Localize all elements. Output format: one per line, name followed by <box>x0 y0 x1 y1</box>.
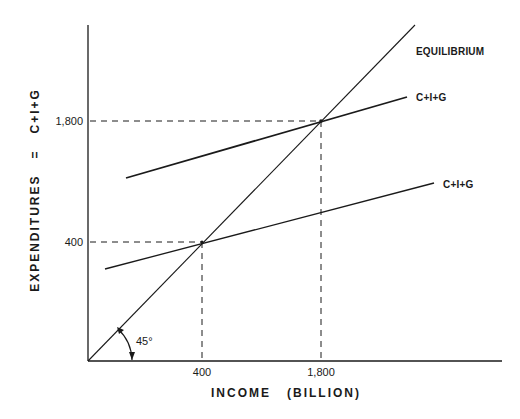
angle-label: 45° <box>136 335 153 347</box>
x-tick-1800: 1,800 <box>307 366 335 378</box>
cig-lower-label: C+I+G <box>443 179 473 190</box>
income-expenditure-chart: 45° EQUILIBRIUM C+I+G C+I+G 1,800 400 40… <box>0 0 520 419</box>
equilibrium-label: EQUILIBRIUM <box>416 46 484 57</box>
equilibrium-point-400 <box>200 240 203 243</box>
y-tick-1800: 1,800 <box>55 115 83 127</box>
angle-arrow-bottom-icon <box>129 352 135 360</box>
angle-arc <box>118 329 132 360</box>
equilibrium-point-1800 <box>319 119 323 123</box>
y-axis-title: EXPENDITURES = C+I+G <box>28 88 42 292</box>
cig-lower-line <box>105 183 434 269</box>
cig-upper-label: C+I+G <box>416 92 446 103</box>
x-tick-400: 400 <box>193 366 211 378</box>
equilibrium-line <box>88 25 415 361</box>
x-axis-title: INCOME (BILLION) <box>211 386 361 400</box>
chart-container: 45° EQUILIBRIUM C+I+G C+I+G 1,800 400 40… <box>0 0 520 419</box>
cig-upper-line <box>126 97 407 178</box>
y-tick-400: 400 <box>65 236 83 248</box>
